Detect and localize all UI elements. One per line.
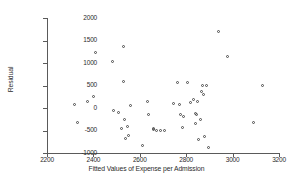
data-point bbox=[76, 121, 79, 124]
data-point bbox=[200, 90, 203, 93]
data-point bbox=[202, 93, 205, 96]
y-tick-label: -500 bbox=[71, 127, 97, 134]
data-point bbox=[126, 125, 129, 128]
y-tick-mark bbox=[43, 63, 47, 64]
data-point bbox=[124, 137, 127, 140]
x-axis-title: Fitted Values of Expense per Admission bbox=[0, 165, 293, 172]
data-point bbox=[86, 100, 89, 103]
data-point bbox=[152, 128, 155, 131]
y-tick-label: 500 bbox=[71, 82, 97, 89]
data-point bbox=[197, 138, 200, 141]
data-point bbox=[199, 118, 202, 121]
data-point bbox=[194, 122, 197, 125]
data-point bbox=[159, 129, 162, 132]
data-point bbox=[147, 113, 150, 116]
data-point bbox=[111, 60, 114, 63]
data-point bbox=[186, 81, 189, 84]
data-point bbox=[120, 127, 123, 130]
data-point bbox=[94, 51, 97, 54]
y-tick-label: 0 bbox=[71, 105, 97, 112]
data-point bbox=[141, 144, 144, 147]
data-point bbox=[172, 102, 175, 105]
data-point bbox=[194, 112, 197, 115]
data-point bbox=[195, 113, 198, 116]
y-tick-mark bbox=[43, 18, 47, 19]
data-point bbox=[203, 135, 206, 138]
data-point bbox=[261, 84, 264, 87]
x-tick-label: 2600 bbox=[125, 156, 155, 163]
data-point bbox=[146, 100, 149, 103]
scatter-plot: 2000150010005000-500-1000 22002400260028… bbox=[0, 0, 293, 181]
data-point bbox=[205, 84, 208, 87]
data-point bbox=[201, 84, 204, 87]
data-point bbox=[182, 115, 185, 118]
data-point bbox=[252, 121, 255, 124]
data-point bbox=[181, 126, 184, 129]
data-point bbox=[112, 109, 115, 112]
data-point bbox=[155, 129, 158, 132]
y-tick-mark bbox=[43, 41, 47, 42]
y-tick-label: 1500 bbox=[71, 37, 97, 44]
data-point bbox=[217, 30, 220, 33]
data-point bbox=[176, 81, 179, 84]
data-point bbox=[127, 134, 130, 137]
data-point bbox=[192, 98, 195, 101]
x-tick-label: 3200 bbox=[264, 156, 293, 163]
y-tick-mark bbox=[43, 108, 47, 109]
data-point bbox=[117, 111, 120, 114]
data-point bbox=[179, 113, 182, 116]
y-tick-label: 2000 bbox=[71, 15, 97, 22]
data-point bbox=[123, 118, 126, 121]
data-point bbox=[226, 55, 229, 58]
x-tick-label: 3000 bbox=[218, 156, 248, 163]
y-axis-line bbox=[47, 18, 48, 154]
data-point bbox=[152, 127, 155, 130]
data-point bbox=[122, 80, 125, 83]
y-axis-title: Residual bbox=[7, 50, 14, 110]
data-point bbox=[122, 45, 125, 48]
data-point bbox=[207, 146, 210, 149]
data-point bbox=[163, 129, 166, 132]
data-point bbox=[92, 95, 95, 98]
data-point bbox=[129, 104, 132, 107]
x-tick-label: 2800 bbox=[171, 156, 201, 163]
data-point bbox=[189, 101, 192, 104]
y-tick-mark bbox=[43, 131, 47, 132]
x-tick-label: 2400 bbox=[78, 156, 108, 163]
data-point bbox=[178, 103, 181, 106]
data-point bbox=[196, 100, 199, 103]
y-tick-label: 1000 bbox=[71, 60, 97, 67]
y-tick-mark bbox=[43, 86, 47, 87]
x-tick-label: 2200 bbox=[32, 156, 62, 163]
